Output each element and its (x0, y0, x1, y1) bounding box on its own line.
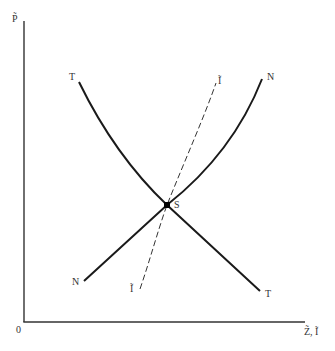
nn-label-top: N (267, 71, 274, 82)
tt-label-bottom: T (265, 288, 271, 299)
equilibrium-label: S (174, 199, 180, 210)
tt-label-top: T (69, 71, 75, 82)
ii-label-bottom: Ĩ (130, 283, 134, 294)
economic-diagram: P̃ Z̃, Ĩ 0 T T N N Ĩ Ĩ S (0, 0, 335, 351)
ii-label-top: Ĩ (218, 75, 222, 86)
y-axis-label: P̃ (12, 12, 18, 24)
ii-dashed-curve (140, 83, 216, 289)
equilibrium-point (164, 202, 170, 208)
x-axis-label: Z̃, Ĩ (304, 325, 319, 337)
nn-label-bottom: N (72, 276, 79, 287)
nn-curve (84, 79, 262, 281)
origin-label: 0 (16, 324, 21, 335)
